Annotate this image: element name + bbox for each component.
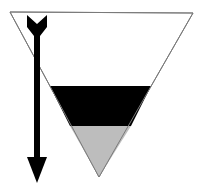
gray-bottom-layer bbox=[70, 126, 131, 177]
black-band bbox=[50, 86, 151, 126]
arrow-shaft bbox=[34, 30, 40, 160]
layered-triangle-diagram bbox=[0, 0, 204, 196]
arrow-head bbox=[27, 157, 47, 183]
